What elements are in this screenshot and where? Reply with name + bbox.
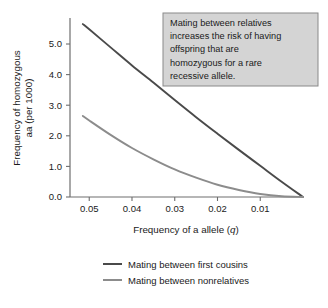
- x-axis-title-suffix: ): [236, 224, 239, 235]
- y-tick-label: 4.0: [49, 69, 62, 80]
- y-tick-label: 1.0: [49, 161, 62, 172]
- annotation-line: homozygous for a rare: [170, 58, 262, 68]
- x-axis-title: Frequency of a allele (q): [133, 224, 239, 235]
- x-axis-title-prefix: Frequency of a allele (: [133, 224, 231, 235]
- annotation-line: increases the risk of having: [170, 31, 281, 41]
- y-tick-label: 0.0: [49, 191, 62, 202]
- y-tick-label: 3.0: [49, 100, 62, 111]
- annotation-line: Mating between relatives: [170, 18, 272, 28]
- x-tick-label: 0.02: [208, 203, 227, 214]
- homozygous-frequency-chart: 0.01.02.03.04.05.0 0.050.040.030.020.01 …: [0, 0, 328, 308]
- y-tick-label: 2.0: [49, 130, 62, 141]
- x-tick-label: 0.05: [80, 203, 99, 214]
- legend-label-1: Mating between nonrelatives: [128, 275, 249, 286]
- annotation-callout: Mating between relativesincreases the ri…: [163, 13, 318, 86]
- annotation-line: offspring that are: [170, 44, 239, 54]
- x-tick-label: 0.04: [123, 203, 142, 214]
- y-tick-label: 5.0: [49, 38, 62, 49]
- x-tick-label: 0.01: [251, 203, 270, 214]
- legend-label-0: Mating between first cousins: [128, 259, 248, 270]
- annotation-line: recessive allele.: [170, 71, 235, 81]
- x-tick-label: 0.03: [165, 203, 184, 214]
- y-axis-title-line2: aa (per 1000): [23, 79, 34, 138]
- y-axis-title-line1: Frequency of homozygous: [11, 50, 22, 166]
